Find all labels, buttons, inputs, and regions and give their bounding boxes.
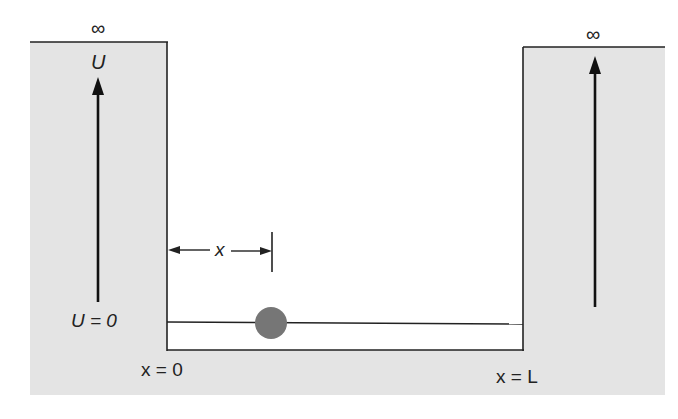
particle-ball — [255, 307, 287, 339]
barrier-region — [30, 42, 665, 395]
left-wall-position-label: x = 0 — [141, 360, 183, 379]
zero-potential-text: U = 0 — [71, 310, 117, 331]
potential-axis-label: U — [91, 52, 105, 72]
right-infinity-label: ∞ — [586, 24, 600, 44]
displacement-right-arrow-icon — [260, 247, 272, 255]
left-infinity-label: ∞ — [91, 18, 105, 38]
right-wall-position-label: x = L — [496, 367, 538, 386]
displacement-label: x — [215, 240, 225, 259]
zero-potential-line — [167, 322, 523, 324]
zero-potential-label: U = 0 — [71, 311, 117, 330]
displacement-left-arrow-icon — [168, 246, 180, 254]
